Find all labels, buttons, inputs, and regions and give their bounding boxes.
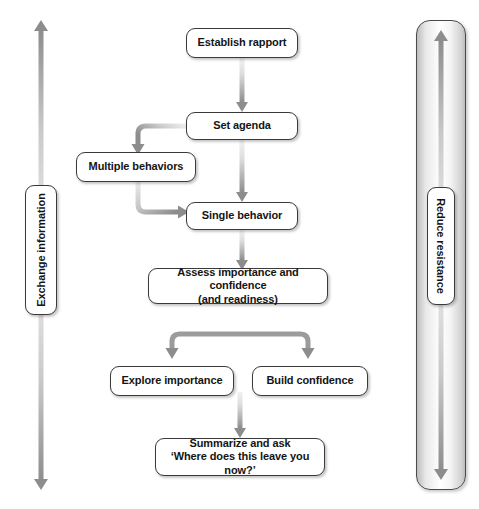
node-summarize-and-ask[interactable]: Summarize and ask ‘Where does this leave… xyxy=(155,438,325,476)
node-explore-importance-label: Explore importance xyxy=(122,374,223,387)
arrow-rapport-to-agenda xyxy=(228,58,256,112)
connector-assess-split xyxy=(152,304,328,366)
node-summarize-line-2: ‘Where does this leave you now?’ xyxy=(163,450,317,477)
arrow-to-summarize xyxy=(226,392,254,438)
right-rail-label-text: Reduce resistance xyxy=(435,198,447,294)
right-rail-label-box: Reduce resistance xyxy=(427,187,455,305)
node-build-confidence-label: Build confidence xyxy=(266,374,353,387)
node-establish-rapport[interactable]: Establish rapport xyxy=(186,28,298,58)
node-set-agenda-label: Set agenda xyxy=(213,119,271,132)
right-rail-arrowhead-down xyxy=(434,469,448,480)
node-establish-rapport-label: Establish rapport xyxy=(198,36,287,49)
node-multiple-behaviors-label: Multiple behaviors xyxy=(89,160,184,173)
node-single-behavior[interactable]: Single behavior xyxy=(186,202,298,230)
node-build-confidence[interactable]: Build confidence xyxy=(252,366,368,396)
left-rail-label-text: Exchange information xyxy=(35,193,47,307)
node-assess-importance-confidence[interactable]: Assess importance and confidence (and re… xyxy=(148,268,328,304)
arrow-agenda-to-single xyxy=(228,140,256,202)
node-explore-importance[interactable]: Explore importance xyxy=(110,366,234,396)
node-single-behavior-label: Single behavior xyxy=(202,209,282,222)
left-rail-arrowhead-down xyxy=(34,479,48,490)
flowchart-canvas: Exchange information Reduce resistance E… xyxy=(0,0,479,509)
arrow-single-to-assess xyxy=(228,230,256,270)
node-multiple-behaviors[interactable]: Multiple behaviors xyxy=(76,152,196,182)
node-assess-line-2: (and readiness) xyxy=(198,293,278,306)
left-rail-label-box: Exchange information xyxy=(25,185,57,315)
node-set-agenda[interactable]: Set agenda xyxy=(186,112,298,140)
connector-multiple-to-single xyxy=(130,180,194,222)
node-assess-line-1: Assess importance and confidence xyxy=(156,266,320,293)
node-summarize-line-1: Summarize and ask xyxy=(189,437,290,450)
